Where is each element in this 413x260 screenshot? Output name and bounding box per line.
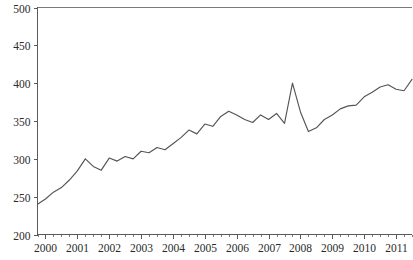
x-tick-label: 2011 [385, 242, 408, 254]
x-axis-tick-labels: 2000200120022003200420052006200720082009… [34, 242, 408, 254]
y-tick-label: 250 [13, 192, 31, 204]
y-tick-label: 350 [13, 116, 31, 128]
x-tick-label: 2003 [130, 242, 153, 254]
y-tick-label: 500 [13, 3, 31, 15]
x-tick-label: 2002 [98, 242, 121, 254]
x-tick-label: 2008 [289, 242, 312, 254]
x-tick-label: 2007 [258, 242, 281, 254]
x-tick-label: 2005 [194, 242, 217, 254]
x-tick-label: 2000 [34, 242, 57, 254]
x-tick-label: 2009 [321, 242, 344, 254]
data-series-line [38, 79, 413, 204]
x-tick-label: 2004 [162, 242, 185, 254]
x-tick-label: 2010 [353, 242, 376, 254]
y-tick-label: 300 [13, 154, 31, 166]
y-axis-tick-labels: 200250300350400450500 [13, 3, 31, 242]
chart-frame [37, 7, 412, 235]
chart-container: 200250300350400450500 200020012002200320… [0, 0, 413, 260]
line-chart: 200250300350400450500 200020012002200320… [0, 0, 413, 260]
x-tick-label: 2006 [226, 242, 249, 254]
x-axis-ticks [46, 235, 397, 240]
y-tick-label: 400 [13, 78, 31, 90]
y-tick-label: 450 [13, 40, 31, 52]
y-tick-label: 200 [13, 230, 31, 242]
x-tick-label: 2001 [66, 242, 89, 254]
